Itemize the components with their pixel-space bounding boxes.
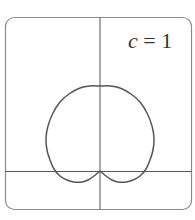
parameter-variable: c (128, 28, 138, 53)
parameter-label: c = 1 (128, 28, 172, 53)
parameter-equals: = (138, 28, 161, 53)
polar-plot: c = 1 (0, 0, 195, 220)
parameter-value: 1 (161, 28, 172, 53)
